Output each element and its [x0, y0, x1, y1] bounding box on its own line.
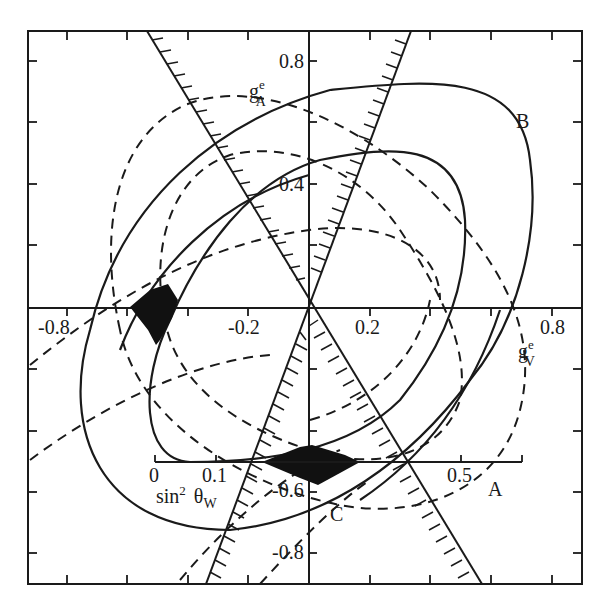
coupling-constant-diagram: -0.8 -0.2 0.2 0.8 0.8 0.4 -0.6 -0.8 geA … [0, 0, 601, 605]
dashed-ellipses-a [30, 96, 525, 584]
scale-tick-label: 0 [149, 464, 159, 486]
y-axis-label: geA [249, 77, 267, 109]
y-tick-label: 0.8 [279, 50, 304, 72]
x-tick-label: -0.8 [38, 316, 70, 338]
x-tick-label: 0.2 [355, 316, 380, 338]
scale-tick-label: 0.5 [447, 464, 472, 486]
x-tick-label: 0.8 [540, 316, 565, 338]
allowed-region-left [130, 284, 178, 345]
x-tick-label: -0.2 [228, 316, 260, 338]
curve-label-b: B [516, 110, 529, 132]
curve-label-a: A [488, 478, 503, 500]
scale-label: sin2θW [156, 483, 217, 511]
y-tick-label: -0.6 [272, 479, 304, 501]
curve-label-c: C [330, 503, 343, 525]
y-tick-label: 0.4 [279, 173, 304, 195]
scale-tick-label: 0.1 [202, 464, 227, 486]
x-axis-label: geV [518, 337, 535, 369]
y-tick-label: -0.8 [272, 541, 304, 563]
